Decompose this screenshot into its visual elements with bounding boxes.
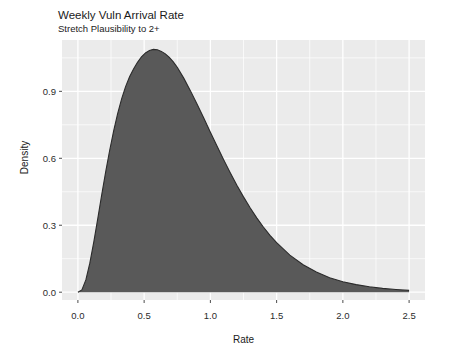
y-axis-label: Density — [19, 118, 30, 198]
y-tick-label: 0.9 — [22, 86, 56, 97]
x-tick-label: 0.5 — [124, 310, 164, 321]
y-tick-label: 0.0 — [22, 287, 56, 298]
x-tick-label: 2.0 — [323, 310, 363, 321]
x-tick-label: 0.0 — [58, 310, 98, 321]
density-chart: Weekly Vuln Arrival Rate Stretch Plausib… — [0, 0, 453, 361]
y-tick-label: 0.3 — [22, 220, 56, 231]
x-tick-label: 1.0 — [190, 310, 230, 321]
plot-area — [0, 0, 453, 361]
x-tick-label: 1.5 — [257, 310, 297, 321]
x-axis-label: Rate — [62, 334, 425, 345]
x-tick-label: 2.5 — [389, 310, 429, 321]
